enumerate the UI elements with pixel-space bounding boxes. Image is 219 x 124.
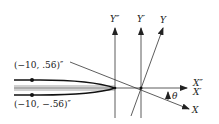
y-axis xyxy=(131,28,163,116)
y-label: Y xyxy=(160,16,166,25)
y-prime-label: Y′ xyxy=(137,15,145,24)
coordinate-frames-diagram: (−10, .56)″ (−10, −.56)″ Y″ Y′ Y X″ X′ X… xyxy=(0,0,219,124)
x-prime-label: X′ xyxy=(193,88,201,97)
origin-dot xyxy=(140,87,143,90)
x-axis xyxy=(70,62,189,109)
lower-curve xyxy=(14,88,115,95)
y-double-prime-label: Y″ xyxy=(110,15,119,24)
vertex-dot xyxy=(114,87,117,90)
x-label: X xyxy=(192,106,198,115)
upper-curve xyxy=(14,80,115,88)
upper-point-dot xyxy=(30,78,34,82)
lower-point-dot xyxy=(30,93,34,97)
lower-point-label: (−10, −.56)″ xyxy=(14,100,71,109)
theta-label: θ xyxy=(172,92,177,101)
upper-point-label: (−10, .56)″ xyxy=(14,61,63,70)
